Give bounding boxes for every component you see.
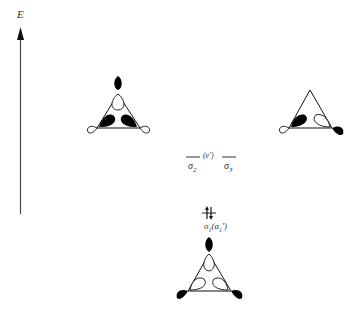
orbital-diagram	[0, 0, 359, 311]
a1-prime-close: ′)	[222, 221, 227, 231]
sigma1-a1-prime-label: σ1(a1′)	[204, 221, 227, 233]
sigma2-subscript: 2	[193, 166, 197, 174]
sigma2-orbital	[87, 76, 149, 133]
e-prime-symmetry-label: (e′)	[203, 151, 214, 160]
arrow-head-icon	[17, 27, 24, 40]
energy-axis-label: E	[17, 8, 24, 20]
sigma3-label: σ3	[224, 160, 232, 174]
a1-symbol: (a	[211, 221, 219, 231]
sigma1-orbital	[177, 237, 243, 299]
sigma3-orbital	[279, 90, 343, 135]
sigma3-subscript: 3	[229, 166, 233, 174]
sigma2-label: σ2	[188, 160, 196, 174]
energy-axis	[17, 27, 24, 214]
